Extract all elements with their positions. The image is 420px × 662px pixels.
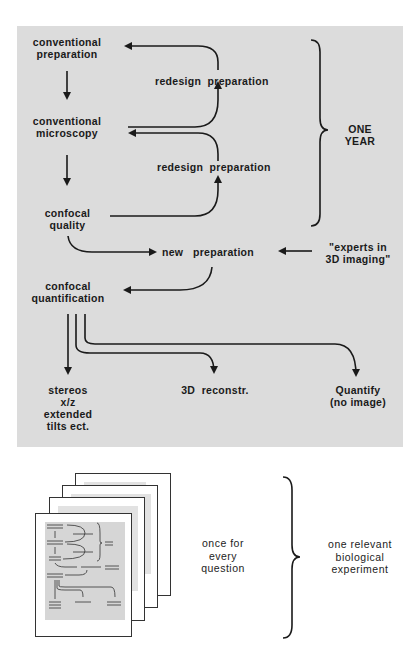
brace-experiment <box>283 477 300 638</box>
arrow-quality-to-newprep <box>68 236 155 252</box>
node-conventional-preparation: conventional preparation <box>17 36 117 60</box>
node-confocal-quantification: confocal quantification <box>18 280 118 304</box>
node-confocal-quality: confocal quality <box>30 207 105 231</box>
stacked-page-front <box>35 513 132 637</box>
label-one-year: ONE YEAR <box>335 123 385 147</box>
thumbnail-flowchart <box>35 513 132 637</box>
arrow-redesign2-to-micro <box>130 133 218 161</box>
node-redesign-preparation-2: redesign preparation <box>157 161 287 173</box>
node-conventional-microscopy: conventional microscopy <box>17 115 117 139</box>
node-experts-3d-imaging: "experts in 3D imaging" <box>318 241 398 265</box>
brace-one-year <box>311 40 328 226</box>
label-once-for-every-question: once for every question <box>190 537 256 575</box>
arrow-redesign1-to-prep <box>126 46 218 70</box>
label-one-relevant-experiment: one relevant biological experiment <box>312 538 408 576</box>
arrow-confocal-to-redesign2 <box>110 177 218 216</box>
output-quantify: Quantify (no image) <box>320 384 396 408</box>
arrow-newprep-to-quant <box>125 267 212 290</box>
output-stereos: stereos x/z extended tilts ect. <box>30 384 106 432</box>
arrow-to-reconstr <box>76 314 214 372</box>
node-new-preparation: new preparation <box>162 246 282 258</box>
output-3d-reconstr: 3D reconstr. <box>170 384 260 396</box>
node-redesign-preparation-1: redesign preparation <box>155 75 285 87</box>
arrow-micro-to-redesign1 <box>128 83 218 127</box>
arrow-to-quantify <box>85 314 356 375</box>
